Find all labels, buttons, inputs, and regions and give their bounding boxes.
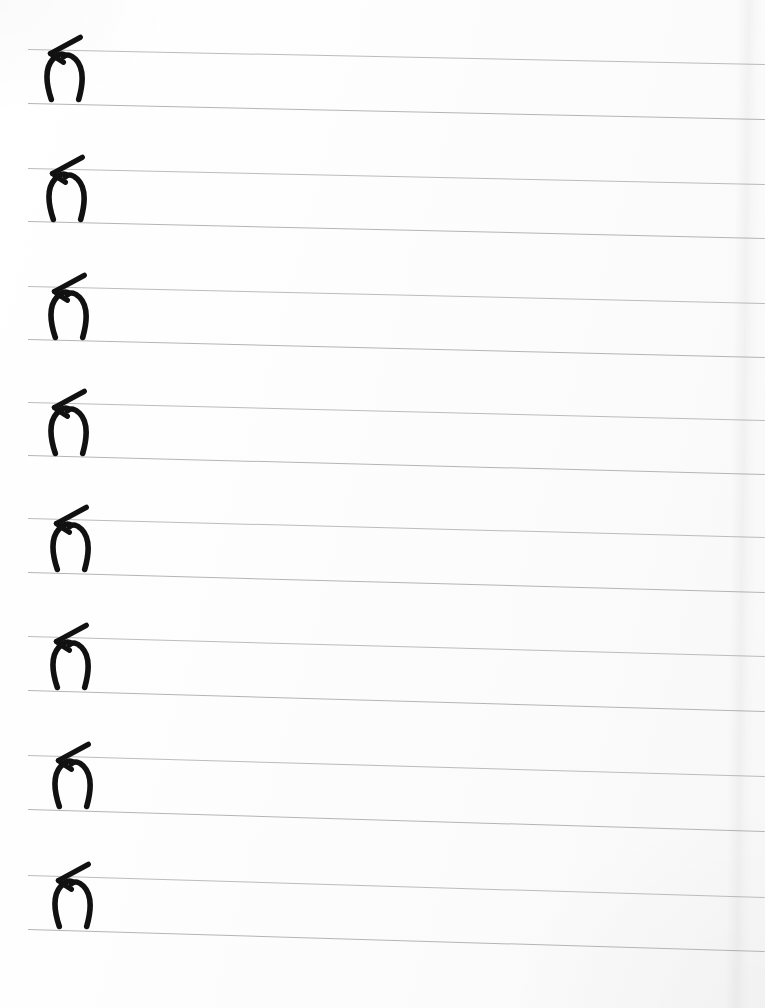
paper-corner-shading-bottom-right — [505, 808, 765, 1008]
glyph-stroke-cross-hook — [56, 523, 69, 532]
handwritten-glyph-row-1 — [40, 28, 90, 108]
glyph-stroke-left-bowl — [53, 524, 71, 569]
handwritten-glyph-row-4 — [44, 382, 94, 462]
glyph-stroke-cross-hook — [54, 291, 67, 300]
glyph-stroke-cross-hook — [50, 53, 63, 62]
rule-line-top-row-3 — [28, 286, 765, 304]
paper-texture — [0, 0, 765, 1008]
glyph-stroke-diagonal — [58, 864, 88, 880]
rule-line-baseline-row-2 — [28, 221, 765, 239]
glyph-stroke-right-bowl — [67, 409, 86, 453]
page-description: Scanned lined paper with one handwritten… — [0, 0, 1, 1]
handwritten-glyph-row-7 — [48, 735, 98, 815]
page-title: Handwriting practice sheet — [0, 0, 1, 1]
glyph-stroke-cross-hook — [56, 641, 69, 650]
handwritten-glyph-row-3 — [44, 266, 94, 346]
paper-right-edge-shadow — [725, 0, 763, 1008]
glyph-stroke-left-bowl — [49, 174, 67, 219]
handwritten-glyph-row-2 — [42, 148, 92, 228]
rule-line-baseline-row-6 — [28, 690, 765, 712]
glyph-stroke-right-bowl — [63, 55, 82, 99]
rule-line-top-row-7 — [28, 755, 765, 777]
rule-line-top-row-1 — [28, 49, 765, 65]
handwritten-glyph-row-6 — [46, 616, 96, 696]
glyph-stroke-cross-hook — [58, 880, 71, 889]
glyph-stroke-left-bowl — [47, 54, 65, 99]
rule-line-top-row-2 — [28, 168, 765, 185]
glyph-stroke-right-bowl — [71, 882, 90, 926]
glyph-stroke-left-bowl — [51, 408, 69, 453]
glyph-stroke-cross-hook — [52, 173, 65, 182]
rule-line-top-row-6 — [28, 636, 765, 657]
rule-line-baseline-row-1 — [28, 103, 765, 120]
rule-line-baseline-row-4 — [28, 455, 765, 475]
glyph-stroke-right-bowl — [71, 762, 90, 806]
rule-line-baseline-row-8 — [28, 929, 765, 952]
glyph-stroke-diagonal — [52, 157, 82, 173]
rule-line-baseline-row-3 — [28, 339, 765, 358]
rule-line-top-row-8 — [28, 875, 765, 898]
glyph-stroke-right-bowl — [65, 175, 84, 219]
glyph-stroke-left-bowl — [51, 292, 69, 337]
paper-corner-shading-top-left — [0, 0, 180, 120]
rule-line-baseline-row-7 — [28, 809, 765, 832]
handwritten-glyph-row-8 — [48, 855, 98, 935]
glyph-stroke-diagonal — [54, 391, 84, 407]
glyph-stroke-left-bowl — [53, 642, 71, 687]
glyph-stroke-diagonal — [50, 37, 80, 53]
rule-line-top-row-5 — [28, 518, 765, 538]
glyph-stroke-cross-hook — [54, 407, 67, 416]
glyph-stroke-right-bowl — [67, 293, 86, 337]
handwritten-glyph-row-5 — [46, 498, 96, 578]
glyph-stroke-right-bowl — [69, 525, 88, 569]
glyph-stroke-left-bowl — [55, 881, 73, 926]
rule-line-top-row-4 — [28, 402, 765, 421]
rule-line-baseline-row-5 — [28, 572, 765, 593]
glyph-stroke-diagonal — [56, 507, 86, 523]
glyph-stroke-right-bowl — [69, 643, 88, 687]
glyph-stroke-diagonal — [56, 625, 86, 641]
practice-sheet-page: Handwriting practice sheet Scanned lined… — [0, 0, 765, 1008]
glyph-stroke-left-bowl — [55, 761, 73, 806]
glyph-stroke-diagonal — [54, 275, 84, 291]
glyph-stroke-cross-hook — [58, 760, 71, 769]
glyph-stroke-diagonal — [58, 744, 88, 760]
